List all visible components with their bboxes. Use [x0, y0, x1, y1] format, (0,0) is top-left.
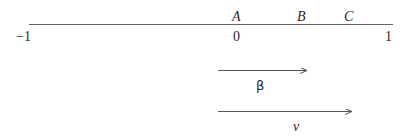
tick-label-minus-one: −1: [16, 30, 31, 44]
tick-label-zero: 0: [233, 30, 240, 44]
point-label-c: C: [344, 10, 353, 24]
tick-label-one: 1: [385, 30, 392, 44]
vector-beta-label: β: [256, 79, 264, 93]
point-label-b: B: [297, 10, 306, 24]
point-label-a: A: [232, 10, 241, 24]
vector-v-label: v: [293, 120, 299, 134]
